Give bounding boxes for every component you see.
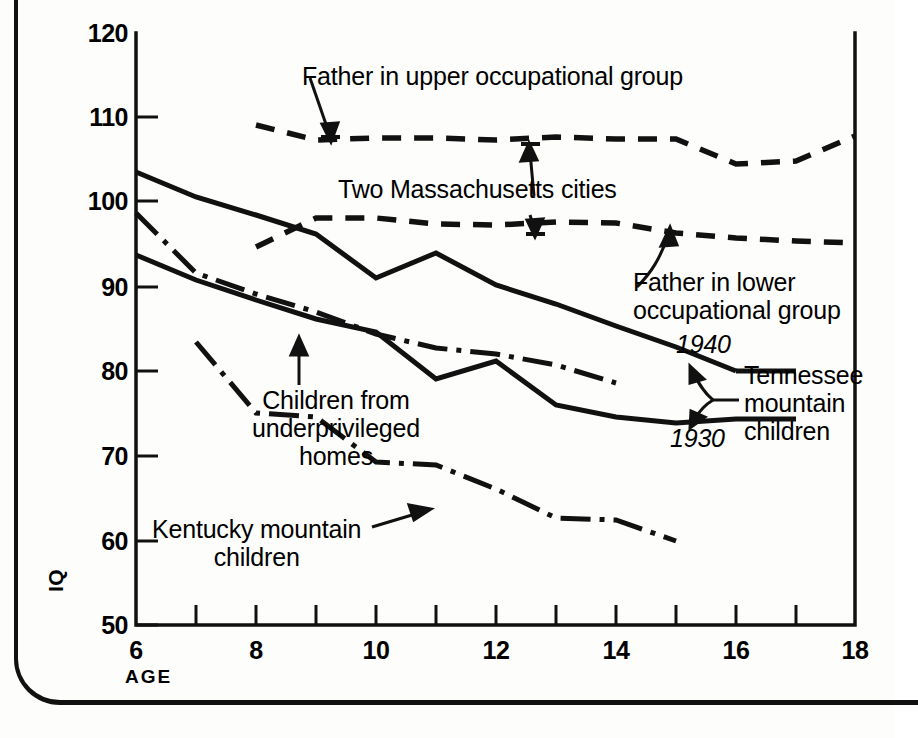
y-tick-120: 120 <box>88 19 128 48</box>
x-tick-10: 10 <box>363 636 390 665</box>
x-axis-ticks <box>196 605 796 625</box>
x-tick-6: 6 <box>129 636 142 665</box>
annotation-kentucky-mountain-children: Kentucky mountain children <box>152 515 361 571</box>
annotation-two-massachusetts-cities: Two Massachusetts cities <box>338 175 617 203</box>
annotation-underprivileged-homes: Children from underprivileged homes <box>252 386 420 470</box>
y-tick-110: 110 <box>89 103 128 132</box>
series-father-lower-occupational <box>256 218 855 247</box>
x-tick-8: 8 <box>249 636 262 665</box>
annotation-year-1930: 1930 <box>670 424 725 452</box>
y-tick-80: 80 <box>101 357 128 386</box>
x-tick-14: 14 <box>603 636 630 665</box>
annotation-tennessee-mountain-children: Tennessee mountain children <box>744 361 863 445</box>
annotation-father-lower-occupational: Father in lower occupational group <box>633 268 841 324</box>
x-axis-label: AGE <box>125 666 172 688</box>
annotation-year-1940: 1940 <box>676 330 731 358</box>
y-tick-70: 70 <box>101 442 128 471</box>
y-tick-90: 90 <box>101 273 128 302</box>
x-tick-12: 12 <box>483 636 510 665</box>
y-tick-50: 50 <box>101 611 128 640</box>
x-tick-18: 18 <box>842 636 869 665</box>
y-axis-label: IQ <box>44 569 68 592</box>
series-father-upper-occupational <box>256 125 855 164</box>
y-tick-60: 60 <box>101 527 128 556</box>
annotation-father-upper-occupational: Father in upper occupational group <box>302 62 683 90</box>
x-tick-16: 16 <box>723 636 750 665</box>
y-tick-100: 100 <box>88 187 128 216</box>
